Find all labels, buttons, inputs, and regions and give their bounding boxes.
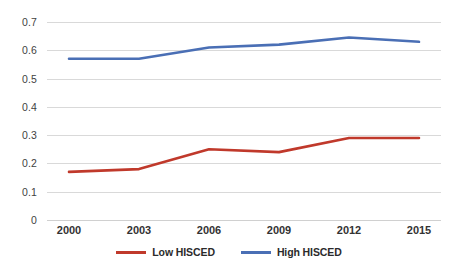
series-line-high-hisced: [69, 38, 419, 59]
line-chart: 00.10.20.30.40.50.60.7 20002003200620092…: [0, 0, 458, 273]
x-tick-label-2006: 2006: [197, 224, 221, 236]
legend-item-high-hisced[interactable]: High HISCED: [241, 246, 342, 258]
x-tick-label-2003: 2003: [127, 224, 151, 236]
x-tick-label-2000: 2000: [57, 224, 81, 236]
x-tick-label-2012: 2012: [337, 224, 361, 236]
x-tick-label-2015: 2015: [407, 224, 431, 236]
y-axis-labels: 00.10.20.30.40.50.60.7: [0, 22, 42, 220]
y-tick-label-0-6: 0.6: [22, 44, 37, 56]
plot-area: [47, 22, 441, 220]
x-tick-label-2009: 2009: [267, 224, 291, 236]
gridline-0: [47, 220, 441, 221]
y-tick-label-0-7: 0.7: [22, 16, 37, 28]
chart-legend: Low HISCED High HISCED: [0, 246, 458, 258]
legend-item-low-hisced[interactable]: Low HISCED: [116, 246, 215, 258]
y-tick-label-0-5: 0.5: [22, 73, 37, 85]
series-line-low-hisced: [69, 138, 419, 172]
legend-label-low-hisced: Low HISCED: [152, 246, 215, 258]
series-layer: [47, 22, 441, 220]
legend-line-icon-low-hisced: [116, 251, 146, 254]
y-tick-label-0-1: 0.1: [22, 186, 37, 198]
x-axis-labels: 200020032006200920122015: [47, 224, 441, 244]
y-tick-label-0-3: 0.3: [22, 129, 37, 141]
legend-line-icon-high-hisced: [241, 251, 271, 254]
y-tick-label-0-2: 0.2: [22, 157, 37, 169]
legend-label-high-hisced: High HISCED: [277, 246, 342, 258]
y-tick-label-0-4: 0.4: [22, 101, 37, 113]
y-tick-label-0: 0: [31, 214, 37, 226]
